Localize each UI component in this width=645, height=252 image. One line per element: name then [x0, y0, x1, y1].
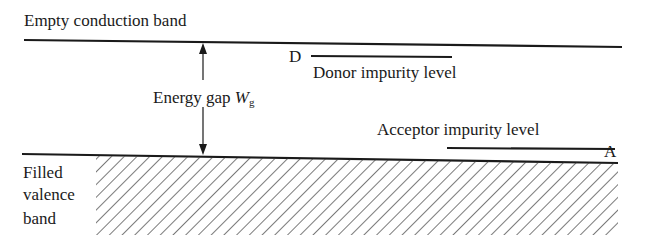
valence-label-line1: Filled: [23, 164, 63, 181]
conduction-band-label: Empty conduction band: [24, 12, 186, 29]
donor-marker: D: [289, 48, 301, 65]
energy-gap-text: Energy gap: [153, 88, 231, 107]
energy-gap-label: Energy gap Wg: [153, 89, 255, 108]
valence-label-line2: valence: [23, 186, 75, 203]
valence-band-hatch: [96, 156, 618, 235]
conduction-band-edge: [24, 40, 622, 47]
energy-gap-symbol: W: [235, 88, 249, 107]
donor-level-line: [311, 56, 452, 57]
acceptor-label: Acceptor impurity level: [377, 121, 539, 138]
donor-label: Donor impurity level: [313, 64, 457, 81]
arrow-down-icon: [199, 144, 207, 155]
band-diagram: [0, 0, 645, 252]
acceptor-marker: A: [604, 143, 616, 160]
valence-label-line3: band: [23, 210, 56, 227]
acceptor-level-line: [447, 148, 615, 149]
energy-gap-subscript: g: [249, 96, 255, 108]
arrow-up-icon: [199, 43, 207, 54]
